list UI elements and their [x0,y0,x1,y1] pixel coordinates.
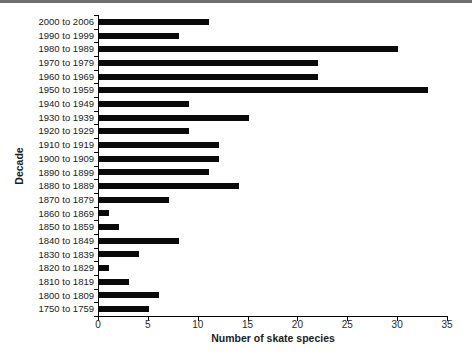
x-axis-title: Number of skate species [211,332,335,344]
y-axis-tick [94,83,98,84]
category-label: 1970 to 1979 [0,56,94,70]
category-label: 1920 to 1929 [0,124,94,138]
category-label: 1990 to 1999 [0,29,94,43]
bar-1950-to-1959 [99,87,428,93]
y-axis-tick [94,248,98,249]
bar-1850-to-1859 [99,224,119,230]
skate-species-bar-chart: Decade 2000 to 20061990 to 19991980 to 1… [0,0,472,358]
x-axis-tick-label: 15 [233,319,263,330]
bar-1880-to-1889 [99,183,239,189]
y-axis-tick [94,179,98,180]
x-axis-tick-label: 5 [133,319,163,330]
y-axis-tick [94,56,98,57]
category-label: 1880 to 1889 [0,179,94,193]
category-label: 1940 to 1949 [0,97,94,111]
x-axis-tick-label: 25 [332,319,362,330]
x-axis-tick-label: 30 [382,319,412,330]
y-axis-tick [94,15,98,16]
category-label: 1800 to 1809 [0,289,94,303]
y-axis-tick [94,166,98,167]
bar-1800-to-1809 [99,292,159,298]
y-axis-tick [94,70,98,71]
x-axis-tick-label: 10 [183,319,213,330]
bar-1970-to-1979 [99,60,318,66]
plot-area [98,15,448,317]
category-label: 1890 to 1899 [0,166,94,180]
bar-2000-to-2006 [99,19,209,25]
category-label: 1820 to 1829 [0,261,94,275]
top-border-rule [0,0,472,3]
category-label: 1960 to 1969 [0,70,94,84]
category-label: 1840 to 1849 [0,234,94,248]
y-axis-tick [94,152,98,153]
bar-1870-to-1879 [99,197,169,203]
category-label: 1860 to 1869 [0,207,94,221]
category-label: 1870 to 1879 [0,193,94,207]
x-axis-tick-label: 35 [432,319,462,330]
bar-1940-to-1949 [99,101,189,107]
category-label: 2000 to 2006 [0,15,94,29]
y-axis-tick [94,193,98,194]
y-axis-tick [94,220,98,221]
y-axis-tick [94,207,98,208]
bar-1890-to-1899 [99,169,209,175]
y-axis-tick [94,42,98,43]
y-axis-tick [94,138,98,139]
category-label: 1830 to 1839 [0,248,94,262]
bar-1750-to-1759 [99,306,149,312]
bar-1920-to-1929 [99,128,189,134]
y-axis-tick [94,29,98,30]
category-label: 1930 to 1939 [0,111,94,125]
bar-1930-to-1939 [99,115,249,121]
category-label: 1900 to 1909 [0,152,94,166]
y-axis-tick [94,111,98,112]
y-axis-tick [94,261,98,262]
x-axis-tick-label: 0 [83,319,113,330]
bar-1900-to-1909 [99,156,219,162]
y-axis-tick [94,234,98,235]
category-label: 1750 to 1759 [0,302,94,316]
category-label: 1910 to 1919 [0,138,94,152]
bar-1990-to-1999 [99,33,179,39]
bar-1860-to-1869 [99,210,109,216]
y-axis-tick [94,97,98,98]
bar-1840-to-1849 [99,238,179,244]
category-label: 1980 to 1989 [0,42,94,56]
y-axis-tick [94,289,98,290]
category-label: 1850 to 1859 [0,220,94,234]
category-label: 1950 to 1959 [0,83,94,97]
bar-1820-to-1829 [99,265,109,271]
y-axis-tick [94,302,98,303]
bar-1980-to-1989 [99,46,398,52]
bar-1910-to-1919 [99,142,219,148]
y-axis-tick [94,124,98,125]
category-label: 1810 to 1819 [0,275,94,289]
y-axis-tick [94,275,98,276]
bar-1810-to-1819 [99,279,129,285]
bar-1830-to-1839 [99,251,139,257]
bar-1960-to-1969 [99,74,318,80]
x-axis-tick-label: 20 [282,319,312,330]
